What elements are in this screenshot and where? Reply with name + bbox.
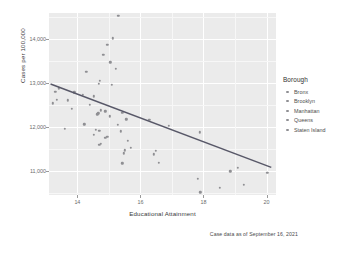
legend-item-label: Staten Island — [294, 127, 325, 133]
x-axis-tick-label: 16 — [129, 199, 151, 205]
legend-item-label: Manhattan — [294, 108, 319, 114]
legend: Borough BronxBrooklynManhattanQueensStat… — [283, 76, 343, 135]
y-axis-tick-label: 14,000 — [2, 36, 46, 42]
x-axis-tick-label: 20 — [256, 199, 278, 205]
legend-item[interactable]: Manhattan — [283, 106, 343, 116]
y-axis-tick-mark — [46, 39, 49, 40]
legend-item-label: Queens — [294, 117, 313, 123]
x-axis-tick-mark — [203, 195, 204, 198]
legend-item-label: Bronx — [294, 89, 308, 95]
y-axis-tick-mark — [46, 127, 49, 128]
y-axis-tick-label: 11,000 — [2, 168, 46, 174]
chart-caption: Case data as of September 16, 2021 — [0, 231, 298, 237]
legend-item[interactable]: Staten Island — [283, 125, 343, 135]
x-axis-tick-mark — [140, 195, 141, 198]
x-axis-title: Educational Attainment — [49, 210, 276, 217]
legend-key-icon — [283, 106, 292, 115]
legend-item[interactable]: Bronx — [283, 87, 343, 97]
y-axis-tick-mark — [46, 83, 49, 84]
x-axis-tick-mark — [77, 195, 78, 198]
chart-figure: Cases per 100,000 11,00012,00013,00014,0… — [0, 0, 343, 254]
y-axis-tick-label: 13,000 — [2, 80, 46, 86]
legend-key-icon — [283, 116, 292, 125]
legend-key-icon — [283, 97, 292, 106]
legend-title: Borough — [283, 76, 343, 83]
x-axis-tick-mark — [267, 195, 268, 198]
y-axis-tick-labels: 11,00012,00013,00014,000 — [0, 0, 46, 254]
plot-panel — [49, 13, 276, 195]
y-axis-tick-label: 12,000 — [2, 124, 46, 130]
legend-key-icon — [283, 125, 292, 134]
x-axis-tick-label: 14 — [66, 199, 88, 205]
legend-item[interactable]: Brooklyn — [283, 97, 343, 107]
legend-item-label: Brooklyn — [294, 98, 315, 104]
page-bleed-text — [0, 246, 343, 254]
x-axis-tick-label: 18 — [192, 199, 214, 205]
y-axis-tick-mark — [46, 171, 49, 172]
legend-key-icon — [283, 87, 292, 96]
trend-line — [49, 13, 276, 195]
legend-item[interactable]: Queens — [283, 116, 343, 126]
legend-items: BronxBrooklynManhattanQueensStaten Islan… — [283, 87, 343, 135]
